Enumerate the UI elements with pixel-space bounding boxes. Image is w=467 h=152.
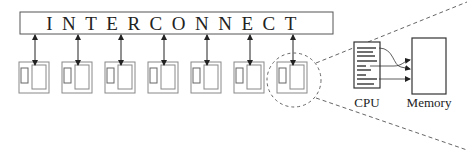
node-memory: [161, 65, 175, 89]
node-cpu: [150, 68, 157, 83]
node-cpu: [279, 68, 286, 83]
processor-node: [277, 35, 307, 93]
interconnect-label: INTERCONNECT: [46, 13, 306, 34]
memory-label: Memory: [407, 95, 452, 110]
node-cpu: [107, 68, 114, 83]
node-memory: [32, 65, 46, 89]
memory-block: [412, 38, 446, 94]
processor-node: [191, 35, 221, 93]
node-memory: [290, 65, 304, 89]
node-cpu: [64, 68, 71, 83]
processor-node: [62, 35, 92, 93]
node-cpu: [193, 68, 200, 83]
node-cpu: [236, 68, 243, 83]
processor-nodes: [19, 35, 307, 93]
node-memory: [118, 65, 132, 89]
node-memory: [247, 65, 261, 89]
node-memory: [204, 65, 218, 89]
processor-node: [19, 35, 49, 93]
processor-node: [105, 35, 135, 93]
multiprocessor-diagram: INTERCONNECT CPU Memory: [0, 0, 467, 152]
processor-node: [148, 35, 178, 93]
cpu-block: [354, 42, 380, 88]
cpu-label: CPU: [354, 95, 380, 110]
node-cpu: [21, 68, 28, 83]
processor-node: [234, 35, 264, 93]
node-memory: [75, 65, 89, 89]
